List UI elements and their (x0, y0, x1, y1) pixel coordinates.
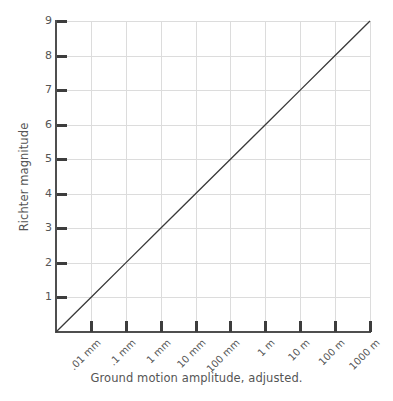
y-tick-mark (57, 227, 67, 230)
y-axis-spine (55, 20, 57, 333)
y-tick-label: 5 (38, 153, 52, 164)
gridline-vertical (370, 21, 371, 332)
gridline-horizontal (56, 194, 370, 195)
gridline-vertical (300, 21, 301, 332)
gridline-horizontal (56, 90, 370, 91)
gridline-horizontal (56, 297, 370, 298)
gridline-vertical (161, 21, 162, 332)
y-axis-title: Richter magnitude (17, 107, 31, 247)
y-tick-mark (57, 296, 67, 299)
x-tick-mark (299, 321, 302, 332)
y-axis-tick-labels: 123456789 (36, 0, 52, 401)
x-tick-mark (195, 321, 198, 332)
y-tick-label: 7 (38, 84, 52, 95)
y-tick-mark (57, 20, 67, 23)
y-tick-mark (57, 262, 67, 265)
gridline-vertical (91, 21, 92, 332)
gridline-horizontal (56, 263, 370, 264)
x-tick-mark (90, 321, 93, 332)
gridline-horizontal (56, 56, 370, 57)
y-tick-mark (57, 193, 67, 196)
x-tick-mark (264, 321, 267, 332)
gridline-vertical (265, 21, 266, 332)
y-tick-label: 2 (38, 257, 52, 268)
gridline-horizontal (56, 159, 370, 160)
x-tick-mark (160, 321, 163, 332)
y-tick-label: 6 (38, 119, 52, 130)
gridline-vertical (126, 21, 127, 332)
y-tick-mark (57, 158, 67, 161)
gridline-horizontal (56, 21, 370, 22)
y-tick-mark (57, 55, 67, 58)
x-axis-title: Ground motion amplitude, adjusted. (0, 371, 393, 385)
gridline-vertical (230, 21, 231, 332)
y-tick-label: 9 (38, 15, 52, 26)
x-axis-spine (55, 331, 371, 333)
y-tick-label: 8 (38, 50, 52, 61)
y-tick-label: 3 (38, 222, 52, 233)
gridline-vertical (196, 21, 197, 332)
gridline-vertical (335, 21, 336, 332)
gridline-horizontal (56, 125, 370, 126)
x-tick-mark (334, 321, 337, 332)
x-tick-mark (229, 321, 232, 332)
plot-area (56, 21, 370, 332)
x-tick-mark (125, 321, 128, 332)
gridline-horizontal (56, 228, 370, 229)
richter-magnitude-chart: 123456789 .01 mm.1 mm1 mm10 mm100 mm1 m1… (0, 0, 393, 401)
y-tick-mark (57, 124, 67, 127)
y-tick-label: 1 (38, 291, 52, 302)
y-tick-label: 4 (38, 188, 52, 199)
y-tick-mark (57, 89, 67, 92)
x-tick-mark (369, 321, 372, 332)
